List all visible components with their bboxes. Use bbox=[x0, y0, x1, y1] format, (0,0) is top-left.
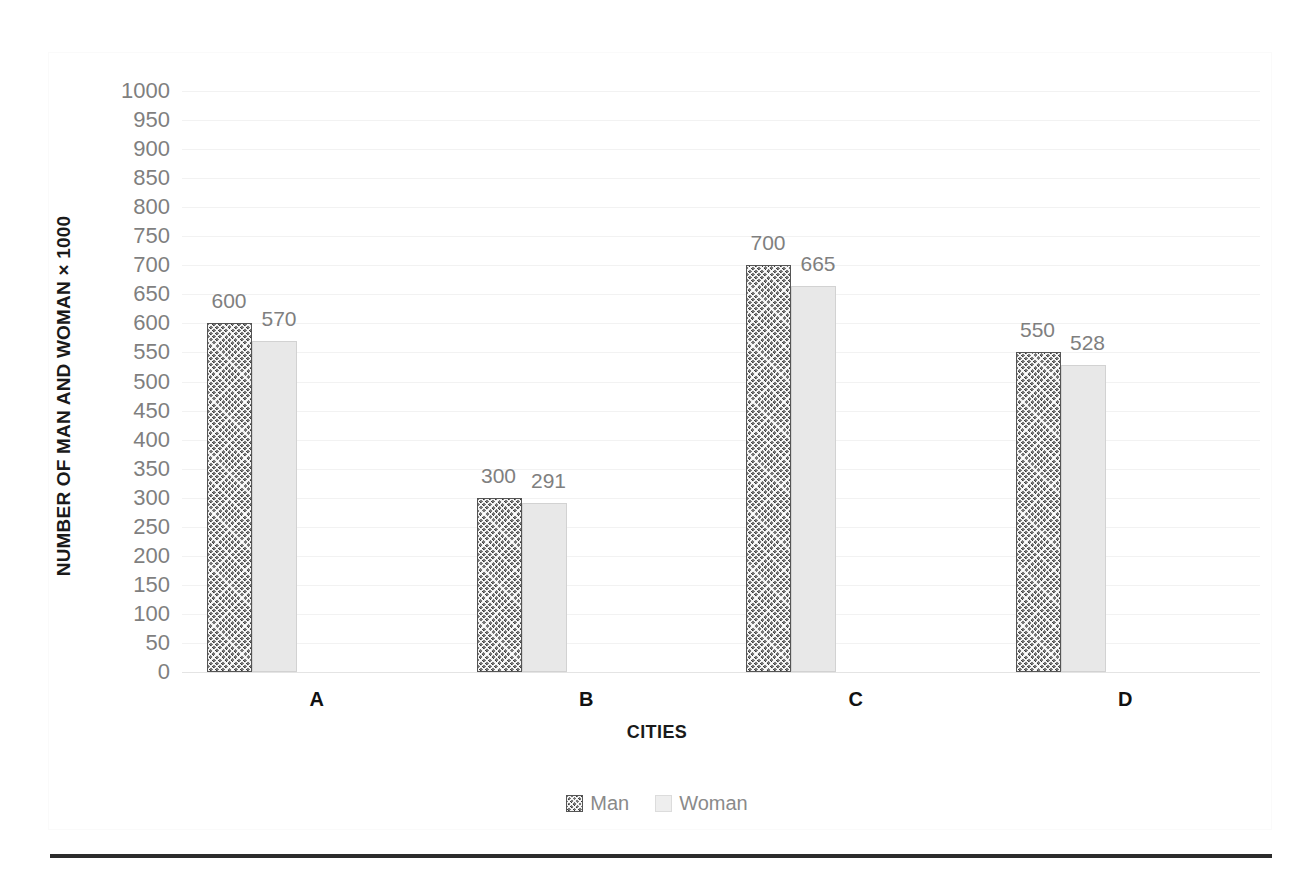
data-label-woman: 665 bbox=[773, 253, 863, 274]
legend-item[interactable]: Woman bbox=[655, 792, 748, 815]
y-axis-tick-label: 650 bbox=[50, 283, 170, 305]
y-axis-tick-label: 300 bbox=[50, 487, 170, 509]
legend-item[interactable]: Man bbox=[566, 792, 629, 815]
y-axis-tick-label: 800 bbox=[50, 196, 170, 218]
x-axis-category-label: C bbox=[776, 688, 936, 711]
y-axis-tick-label: 450 bbox=[50, 400, 170, 422]
gridline bbox=[182, 672, 1260, 673]
y-axis-tick-label: 250 bbox=[50, 516, 170, 538]
data-label-woman: 528 bbox=[1043, 332, 1133, 353]
data-label-man: 700 bbox=[723, 232, 813, 253]
bar-man[interactable] bbox=[746, 265, 791, 672]
bar-group: 600570 bbox=[182, 91, 452, 672]
bar-woman[interactable] bbox=[1061, 365, 1106, 672]
bar-group: 300291 bbox=[452, 91, 722, 672]
data-label-woman: 291 bbox=[504, 470, 594, 491]
y-axis-tick-label: 1000 bbox=[50, 80, 170, 102]
y-axis-tick-label: 400 bbox=[50, 429, 170, 451]
y-axis-tick-label: 100 bbox=[50, 603, 170, 625]
bar-woman[interactable] bbox=[252, 341, 297, 672]
y-axis-tick-label: 200 bbox=[50, 545, 170, 567]
y-axis-tick-label: 550 bbox=[50, 341, 170, 363]
y-axis-tick-label: 850 bbox=[50, 167, 170, 189]
y-axis-tick-label: 350 bbox=[50, 458, 170, 480]
woman-solid-swatch bbox=[655, 795, 672, 812]
y-axis-tick-label: 600 bbox=[50, 312, 170, 334]
y-axis-tick-label: 500 bbox=[50, 371, 170, 393]
y-axis-tick-label: 950 bbox=[50, 109, 170, 131]
x-axis-category-label: A bbox=[237, 688, 397, 711]
y-axis-tick-label: 900 bbox=[50, 138, 170, 160]
x-axis-category-label: D bbox=[1045, 688, 1205, 711]
legend-label: Woman bbox=[679, 792, 748, 815]
y-axis-tick-label: 50 bbox=[50, 632, 170, 654]
bar-man[interactable] bbox=[477, 498, 522, 672]
y-axis-tick-label: 0 bbox=[50, 661, 170, 683]
bar-group: 550528 bbox=[991, 91, 1261, 672]
y-axis-tick-label: 750 bbox=[50, 225, 170, 247]
plot-area: 600570300291700665550528 bbox=[182, 91, 1260, 672]
bar-woman[interactable] bbox=[522, 503, 567, 672]
y-axis-title: NUMBER OF MAN AND WOMAN × 1000 bbox=[53, 186, 75, 606]
bar-group: 700665 bbox=[721, 91, 991, 672]
man-pattern-swatch bbox=[566, 795, 583, 812]
y-axis-tick-label: 700 bbox=[50, 254, 170, 276]
chart-legend: ManWoman bbox=[0, 792, 1314, 815]
x-axis-category-label: B bbox=[506, 688, 666, 711]
data-label-woman: 570 bbox=[234, 308, 324, 329]
x-axis-title: CITIES bbox=[0, 722, 1314, 743]
bar-woman[interactable] bbox=[791, 286, 836, 672]
bar-chart-figure: NUMBER OF MAN AND WOMAN × 1000 100095090… bbox=[0, 0, 1314, 886]
legend-label: Man bbox=[590, 792, 629, 815]
bar-man[interactable] bbox=[1016, 352, 1061, 672]
bottom-divider-rule bbox=[50, 854, 1272, 858]
bar-man[interactable] bbox=[207, 323, 252, 672]
y-axis-tick-label: 150 bbox=[50, 574, 170, 596]
